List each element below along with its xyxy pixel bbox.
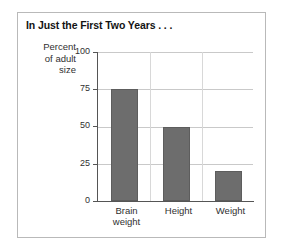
gridline-100 bbox=[98, 52, 253, 53]
y-tick-label-100: 100 bbox=[64, 46, 90, 56]
figure-canvas: In Just the First Two Years . . . Percen… bbox=[0, 0, 282, 251]
y-tick-label-25: 25 bbox=[64, 158, 90, 168]
x-axis-line bbox=[97, 201, 254, 202]
category-divider-2 bbox=[202, 52, 203, 201]
x-tick-label-weight-line-1: Weight bbox=[196, 205, 265, 216]
x-tick-label-weight: Weight bbox=[196, 205, 265, 216]
x-tick-label-brain-weight-line-2: weight bbox=[92, 216, 161, 227]
plot-area bbox=[98, 52, 253, 201]
y-tick-label-75: 75 bbox=[64, 83, 90, 93]
bar-weight bbox=[215, 171, 242, 201]
y-axis-caption-line-3: size bbox=[20, 64, 76, 76]
bar-height bbox=[163, 127, 190, 201]
bar-brain-weight bbox=[111, 89, 138, 201]
category-divider-1 bbox=[150, 52, 151, 201]
chart-title: In Just the First Two Years . . . bbox=[26, 19, 172, 31]
y-tick-label-0: 0 bbox=[64, 195, 90, 205]
y-tick-label-50: 50 bbox=[64, 120, 90, 130]
